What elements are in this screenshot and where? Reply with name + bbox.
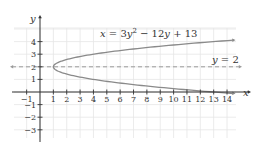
y-axis-label: y — [29, 13, 36, 24]
x-tick-label: 14 — [222, 95, 232, 104]
x-tick-label: 6 — [118, 95, 123, 104]
asymptote-label: y = 2 — [211, 54, 239, 65]
x-tick-label: 10 — [169, 95, 179, 104]
parabola-chart: −112345678910111213144321−1−2−3 x y x = … — [0, 0, 267, 151]
arrow-left-icon — [10, 65, 13, 69]
x-tick-label: 4 — [91, 95, 96, 104]
x-tick-label: 8 — [144, 95, 149, 104]
x-tick-label: 2 — [64, 95, 69, 104]
x-tick-label: 5 — [104, 95, 109, 104]
x-tick-label: 12 — [195, 95, 205, 104]
y-tick-label: 2 — [31, 63, 36, 72]
x-tick-label: 1 — [51, 95, 56, 104]
x-tick-label: 13 — [209, 95, 219, 104]
x-axis-label: x — [243, 87, 249, 98]
y-tick-label: −1 — [24, 101, 36, 110]
y-tick-label: 4 — [31, 38, 36, 47]
y-tick-label: 1 — [31, 75, 36, 84]
x-tick-label: 9 — [158, 95, 163, 104]
x-tick-label: 11 — [182, 95, 192, 104]
y-tick-label: −2 — [24, 113, 36, 122]
x-tick-label: 3 — [78, 95, 83, 104]
y-tick-label: 3 — [31, 50, 36, 59]
arrow-right-icon — [239, 65, 242, 69]
x-tick-label: 7 — [131, 95, 136, 104]
y-axis-arrow-icon — [38, 15, 42, 18]
y-tick-label: −3 — [24, 126, 36, 135]
equation-label: x = 3y2 − 12y + 13 — [100, 27, 197, 39]
